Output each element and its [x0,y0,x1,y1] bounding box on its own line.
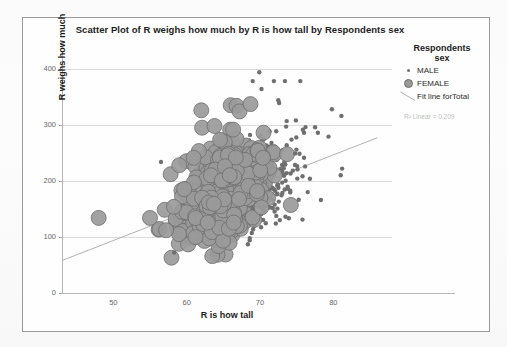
data-point-female [256,150,271,165]
data-point-female [256,125,271,140]
y-tick-label-200: 200 [26,176,56,185]
y-tick-label-100: 100 [26,232,56,241]
data-point-male [259,87,263,91]
data-point-male [274,129,278,133]
data-point-male [295,176,299,180]
data-point-male [302,156,306,160]
data-point-male [172,250,176,254]
data-point-male [159,160,163,164]
data-point-male [300,217,304,221]
data-point-male [279,193,283,197]
data-point-male [272,209,276,213]
data-point-female [159,223,174,238]
data-point-male [298,79,302,83]
data-point-male [257,70,261,74]
male-marker-icon [399,69,417,72]
data-point-male [246,242,250,246]
data-point-male [297,152,301,156]
data-point-female [250,184,265,199]
data-point-female [207,119,222,134]
legend-item-fit-line[interactable]: Fit line forTotal [399,90,495,102]
data-point-male [248,133,252,137]
data-point-male [303,125,307,129]
legend-item-female[interactable]: FEMALE [399,77,495,89]
fit-line-icon [399,91,417,101]
data-point-male [280,163,284,167]
x-axis-line [62,293,455,294]
data-point-male [274,214,278,218]
legend-title: Respondents sex [399,43,485,63]
data-point-male [293,163,297,167]
data-point-female [186,150,201,165]
data-point-male [294,147,298,151]
chart-title: Scatter Plot of R weighs how much by R i… [40,24,440,35]
data-point-male [273,189,277,193]
data-point-female [164,250,179,265]
data-point-female [166,199,181,214]
x-tick-label-80: 80 [318,298,348,307]
data-point-male [294,118,298,122]
data-point-male [319,198,323,202]
data-point-male [340,166,344,170]
x-tick-label-60: 60 [172,298,202,307]
y-tick-label-0: 0 [26,288,56,297]
data-point-male [277,101,281,105]
data-point-male [306,190,310,194]
data-point-male [303,164,307,168]
data-point-female [254,200,269,215]
data-point-male [339,173,343,177]
data-point-male [277,199,281,203]
data-point-female [280,147,295,162]
legend-item-male[interactable]: MALE [399,64,495,76]
r-squared-annotation: R² Linear = 0.209 [404,113,454,120]
data-point-male [248,238,252,242]
data-point-male [302,131,306,135]
data-point-female [222,168,237,183]
y-tick-label-300: 300 [26,120,56,129]
legend-label-female: FEMALE [417,79,449,88]
legend-label-fit-line: Fit line forTotal [417,92,469,101]
data-point-female [283,198,298,213]
data-point-female [206,196,221,211]
data-point-male [278,218,282,222]
data-point-male [283,179,287,183]
data-point-female [200,215,215,230]
data-point-male [326,134,330,138]
y-tick-label-400: 400 [26,64,56,73]
scatter-points [62,52,392,293]
data-point-female [91,210,106,225]
data-point-male [284,124,288,128]
data-point-female [213,132,228,147]
data-point-male [286,187,290,191]
data-point-male [284,171,288,175]
y-tick-mark-0 [59,293,62,294]
legend-title-line1: Respondents [399,43,485,53]
data-point-male [300,174,304,178]
plot-area [62,52,392,293]
x-tick-label-70: 70 [245,298,275,307]
data-point-female [232,192,247,207]
data-point-male [251,79,255,83]
data-point-male [293,151,297,155]
data-point-female [243,97,258,112]
data-point-male [308,177,312,181]
legend: Respondents sex MALE FEMALE Fit line for… [399,43,495,102]
data-point-male [288,171,292,175]
data-point-male [285,119,289,123]
legend-title-line2: sex [399,53,485,63]
data-point-male [250,231,254,235]
x-tick-label-50: 50 [98,298,128,307]
data-point-female [177,182,192,197]
data-point-male [272,79,276,83]
data-point-male [276,186,280,190]
screenshot-root: Scatter Plot of R weighs how much by R i… [0,0,507,347]
female-marker-icon [399,79,417,88]
data-point-male [294,135,298,139]
data-point-male [283,215,287,219]
data-point-male [339,114,343,118]
data-point-male [274,221,278,225]
data-point-male [313,125,317,129]
data-point-male [283,79,287,83]
data-point-female [172,158,187,173]
x-axis-title: R is how tall [62,310,392,320]
